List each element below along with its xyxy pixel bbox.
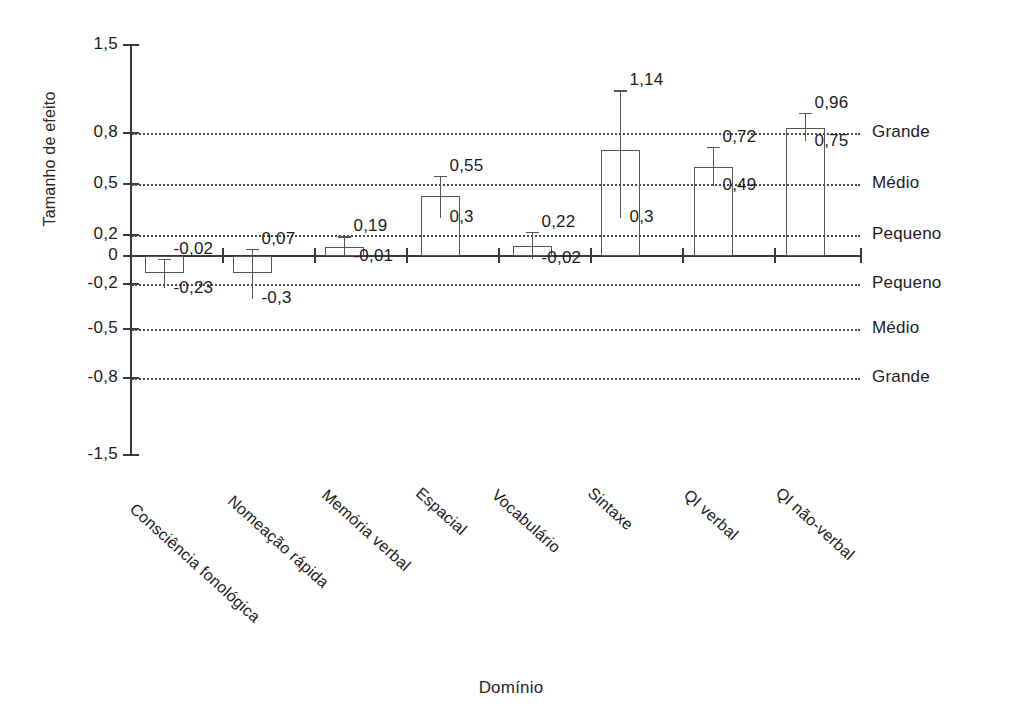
gridline-annotation: Médio — [872, 318, 919, 338]
y-tick-label: -1,5 — [58, 444, 118, 464]
error-bar-cap-upper — [246, 249, 259, 251]
gridline-annotation: Pequeno — [872, 273, 941, 293]
y-tick-label: -0,5 — [58, 318, 118, 338]
y-tick-label: -0,8 — [58, 367, 118, 387]
error-bar-cap-upper — [707, 147, 720, 149]
gridline — [132, 235, 860, 237]
x-tick-mark — [682, 248, 684, 263]
y-tick-label: 0,2 — [58, 224, 118, 244]
y-axis-title: Tamanho de efeito — [41, 39, 59, 279]
x-tick-mark — [774, 248, 776, 263]
data-label-lower: -0,02 — [542, 248, 582, 268]
gridline-annotation: Grande — [872, 122, 930, 142]
data-label-upper: 1,14 — [630, 70, 664, 90]
data-label-upper: 0,72 — [723, 127, 757, 147]
data-label-lower: 0,49 — [723, 175, 757, 195]
gridline — [132, 378, 860, 380]
gridline-annotation: Pequeno — [872, 224, 941, 244]
x-category-label: QI não-verbal — [772, 484, 858, 564]
error-bar-cap-upper — [338, 236, 351, 238]
error-bar-cap-upper — [158, 259, 171, 261]
data-label-lower: 0,3 — [630, 207, 654, 227]
data-label-upper: 0,19 — [354, 216, 388, 236]
x-category-label: Nomeação rápida — [224, 492, 332, 592]
data-label-lower: -0,23 — [174, 278, 214, 298]
data-label-upper: 0,96 — [815, 93, 849, 113]
data-label-upper: 0,22 — [542, 212, 576, 232]
gridline — [132, 329, 860, 331]
y-tick-mark — [123, 44, 139, 46]
y-tick-label: 0 — [58, 245, 118, 265]
error-bar — [532, 232, 534, 259]
gridline-annotation: Médio — [872, 173, 919, 193]
x-category-label: Memória verbal — [318, 486, 414, 575]
x-tick-mark — [406, 248, 408, 263]
data-label-lower: -0,3 — [262, 288, 292, 308]
error-bar-cap-upper — [614, 90, 627, 92]
y-tick-label: 0,5 — [58, 173, 118, 193]
data-label-lower: 0,3 — [450, 207, 474, 227]
x-tick-mark — [314, 248, 316, 263]
y-tick-label: 1,5 — [58, 34, 118, 54]
error-bar — [164, 259, 166, 289]
error-bar — [713, 147, 715, 186]
y-tick-mark — [123, 454, 139, 456]
data-label-lower: -0,01 — [354, 246, 394, 266]
data-label-upper: 0,07 — [262, 229, 296, 249]
data-label-upper: 0,55 — [450, 156, 484, 176]
x-category-label: Sintaxe — [584, 484, 637, 534]
y-tick-label: -0,2 — [58, 273, 118, 293]
data-label-lower: 0,75 — [815, 131, 849, 151]
error-bar-cap-upper — [799, 113, 812, 115]
x-category-label: Espacial — [412, 484, 470, 539]
error-bar-cap-upper — [434, 176, 447, 178]
x-tick-mark — [130, 248, 132, 263]
x-tick-mark — [860, 248, 862, 263]
x-category-label: QI verbal — [680, 486, 742, 544]
error-bar — [252, 249, 254, 299]
gridline-annotation: Grande — [872, 367, 930, 387]
error-bar — [620, 90, 622, 218]
error-bar — [440, 176, 442, 219]
y-tick-label: 0,8 — [58, 122, 118, 142]
x-tick-mark — [590, 248, 592, 263]
x-tick-mark — [222, 248, 224, 263]
error-bar-cap-upper — [526, 232, 539, 234]
x-tick-mark — [498, 248, 500, 263]
effect-size-chart: Tamanho de efeito Domínio 1,50,80,50,20-… — [0, 0, 1022, 727]
data-label-upper: -0,02 — [174, 239, 214, 259]
error-bar — [344, 236, 346, 257]
x-axis-title: Domínio — [0, 678, 1022, 698]
gridline — [132, 284, 860, 286]
error-bar — [805, 113, 807, 142]
x-category-label: Vocabulário — [488, 486, 564, 557]
